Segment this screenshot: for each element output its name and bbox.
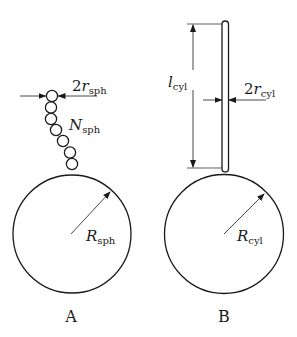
radius-label-a: Rsph bbox=[85, 227, 116, 246]
bead bbox=[50, 124, 61, 135]
panel-b: lcyl 2rcyl Rcyl B bbox=[165, 21, 284, 326]
bead bbox=[45, 102, 56, 113]
bead bbox=[46, 90, 57, 101]
diameter-label: 2rcyl bbox=[244, 80, 275, 99]
bead-diameter-label: 2rsph bbox=[72, 77, 107, 96]
cylinder-rod bbox=[222, 21, 229, 172]
large-sphere-a bbox=[13, 175, 131, 293]
bead bbox=[45, 113, 56, 124]
bead bbox=[66, 158, 77, 169]
length-label: lcyl bbox=[168, 73, 187, 92]
bead bbox=[57, 135, 68, 146]
bead bbox=[64, 147, 75, 158]
panel-a: 2rsph Nsph Rsph A bbox=[13, 77, 131, 326]
caption-a: A bbox=[64, 307, 77, 326]
chain-count-label: Nsph bbox=[68, 116, 101, 135]
diagram-canvas: 2rsph Nsph Rsph A lcyl 2rcyl Rcyl bbox=[0, 0, 297, 337]
caption-b: B bbox=[218, 307, 230, 326]
radius-label-b: Rcyl bbox=[236, 227, 263, 246]
